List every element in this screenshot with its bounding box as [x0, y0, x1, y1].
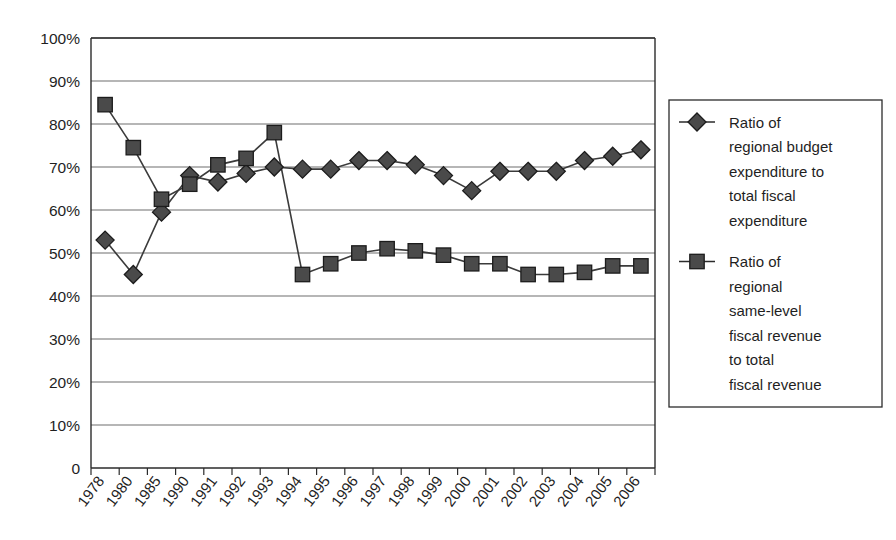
data-point-square — [154, 192, 168, 206]
x-tick-label: 2002 — [497, 473, 531, 510]
line-chart: 010%20%30%40%50%60%70%80%90%100%19781980… — [0, 0, 896, 540]
y-tick-label: 20% — [49, 374, 80, 391]
y-tick-label: 100% — [40, 30, 80, 47]
x-tick-label: 2004 — [553, 473, 587, 510]
x-tick-label: 1995 — [299, 473, 333, 510]
legend: Ratio ofregional budgetexpenditure totot… — [669, 100, 882, 407]
x-tick-label: 1990 — [158, 473, 192, 510]
data-point-square — [549, 267, 563, 281]
data-point-square — [436, 248, 450, 262]
y-tick-label: 70% — [49, 159, 80, 176]
data-point-square — [380, 242, 394, 256]
data-point-square — [577, 265, 591, 279]
data-point-square — [606, 259, 620, 273]
data-point-square — [295, 267, 309, 281]
legend-label-line: fiscal revenue — [729, 376, 822, 393]
data-point-square — [465, 257, 479, 271]
x-tick-label: 2005 — [581, 473, 615, 510]
x-tick-label: 1998 — [384, 473, 418, 510]
y-tick-label: 80% — [49, 116, 80, 133]
y-tick-label: 30% — [49, 331, 80, 348]
data-point-square — [211, 158, 225, 172]
y-tick-label: 0 — [71, 460, 80, 477]
x-tick-label: 2006 — [610, 473, 644, 510]
x-tick-label: 1996 — [328, 473, 362, 510]
y-tick-label: 10% — [49, 417, 80, 434]
x-tick-label: 2001 — [469, 473, 503, 510]
data-point-square — [352, 246, 366, 260]
legend-label-line: regional — [729, 278, 782, 295]
x-tickmarks — [91, 468, 655, 475]
x-axis-labels: 1978198019851990199119921993199419951996… — [74, 473, 643, 510]
data-point-square — [267, 125, 281, 139]
y-tick-label: 60% — [49, 202, 80, 219]
y-tick-label: 50% — [49, 245, 80, 262]
legend-label-line: to total — [729, 351, 774, 368]
x-tick-label: 1978 — [74, 473, 108, 510]
data-point-square — [493, 257, 507, 271]
legend-label-line: regional budget — [729, 138, 833, 155]
y-tick-label: 40% — [49, 288, 80, 305]
x-tick-label: 1993 — [243, 473, 277, 510]
data-point-square — [183, 177, 197, 191]
x-tick-label: 1994 — [271, 473, 305, 510]
x-tick-label: 2000 — [440, 473, 474, 510]
data-point-square — [98, 97, 112, 111]
data-point-square — [634, 259, 648, 273]
legend-label-line: same-level — [729, 302, 802, 319]
legend-label-line: fiscal revenue — [729, 327, 822, 344]
legend-label-line: Ratio of — [729, 253, 782, 270]
legend-label-line: Ratio of — [729, 114, 782, 131]
data-point-square — [408, 244, 422, 258]
data-point-square — [324, 257, 338, 271]
y-tick-label: 90% — [49, 73, 80, 90]
x-tick-label: 1997 — [356, 473, 390, 510]
data-point-square — [126, 140, 140, 154]
data-point-square — [521, 267, 535, 281]
x-tick-label: 1991 — [187, 473, 221, 510]
x-tick-label: 1985 — [130, 473, 164, 510]
x-tick-label: 1980 — [102, 473, 136, 510]
chart-container: 010%20%30%40%50%60%70%80%90%100%19781980… — [0, 0, 896, 540]
legend-label-line: expenditure to — [729, 163, 824, 180]
data-point-square — [690, 254, 704, 268]
x-tick-label: 1992 — [215, 473, 249, 510]
x-tick-label: 1999 — [412, 473, 446, 510]
y-axis-labels: 010%20%30%40%50%60%70%80%90%100% — [40, 30, 80, 477]
data-point-square — [239, 151, 253, 165]
legend-label-line: total fiscal — [729, 187, 796, 204]
x-tick-label: 2003 — [525, 473, 559, 510]
legend-label-line: expenditure — [729, 212, 807, 229]
